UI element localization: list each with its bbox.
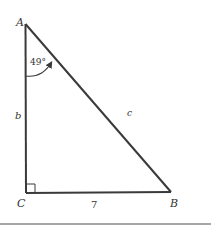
right-angle-marker: [26, 184, 35, 193]
side-label-c: c: [127, 108, 132, 118]
angle-a-label: 49°: [30, 57, 46, 67]
side-a: [26, 192, 171, 193]
side-label-a: 7: [91, 199, 97, 210]
vertex-label-c: C: [17, 197, 26, 210]
triangle-diagram: A C B 49° b c 7: [0, 0, 211, 228]
side-b: [26, 24, 27, 193]
vertex-label-b: B: [169, 197, 178, 210]
vertex-label-a: A: [15, 16, 24, 29]
side-c-hypotenuse: [26, 24, 172, 192]
side-label-b: b: [15, 110, 21, 121]
